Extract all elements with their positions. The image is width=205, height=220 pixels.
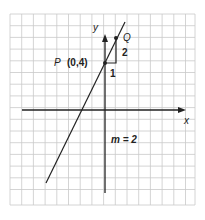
rise-label: 2 (122, 47, 128, 58)
x-axis-label: x (183, 115, 190, 126)
point-p-name: P (54, 57, 61, 68)
coordinate-plane: y x P (0,4) Q 2 1 m = 2 (0, 0, 205, 220)
y-axis-label: y (92, 22, 99, 33)
run-label: 1 (110, 68, 116, 79)
slope-label: m = 2 (111, 134, 137, 145)
y-axis-arrow-icon (102, 34, 108, 42)
point-q-name: Q (123, 32, 131, 43)
point-q-marker (114, 36, 118, 40)
graph-line (46, 22, 125, 183)
point-p-coords: (0,4) (67, 57, 88, 68)
point-p-marker (103, 61, 107, 65)
